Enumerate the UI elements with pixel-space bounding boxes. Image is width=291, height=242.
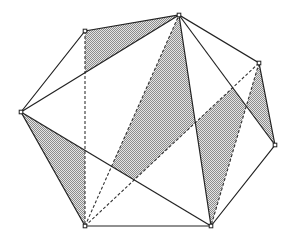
vertex-B xyxy=(83,29,87,33)
vertex-A xyxy=(19,110,23,114)
vertex-D xyxy=(257,61,261,65)
heptagon-diagram xyxy=(0,0,291,242)
vertex-C xyxy=(177,13,181,17)
shaded-region xyxy=(246,63,275,145)
vertex-E xyxy=(273,143,277,147)
shaded-region xyxy=(195,88,246,226)
vertex-F xyxy=(209,224,213,228)
vertex-G xyxy=(83,224,87,228)
shaded-regions xyxy=(21,15,275,226)
